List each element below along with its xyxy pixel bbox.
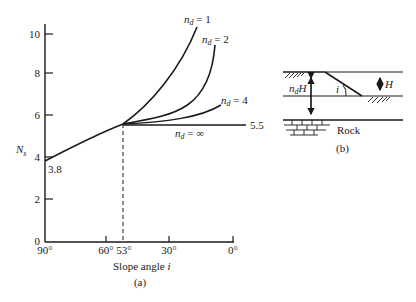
x-axis-title: Slope angle i [113,260,170,272]
ytick-label-8: 8 [35,67,41,79]
ytick-label-10: 10 [29,28,41,40]
label-nd-inf: nd = ∞ [175,127,204,141]
chart-a-labels: 10 8 6 4 2 0 90° 60° 53° 30° 0° Slope an… [15,13,264,289]
ytick-label-2: 2 [35,193,41,205]
slope-angle-arc [343,85,346,96]
ytick-label-6: 6 [35,109,41,121]
rock-label: Rock [337,124,361,136]
curve-nd-1 [123,27,197,124]
curve-common [45,124,123,161]
xtick-label-53: 53° [116,244,131,256]
ytick-label-4: 4 [35,151,41,163]
rock-brick-icon [284,120,330,135]
label-nd-1: nd = 1 [184,13,211,27]
xtick-label-30: 30° [161,244,176,256]
xtick-label-60: 60° [98,244,113,256]
slope-stability-figure: 10 8 6 4 2 0 90° 60° 53° 30° 0° Slope an… [0,0,416,302]
label-nd-2: nd = 2 [202,33,229,47]
angle-label: i [336,83,339,95]
caption-a: (a) [134,276,147,289]
height-label: H [384,78,394,90]
toe-hatch-icon [368,97,390,103]
chart-a [45,24,246,242]
xtick-label-90: 90° [37,244,52,256]
y-axis-title: Ns [15,143,26,158]
label-nd-4: nd = 4 [221,94,248,108]
xtick-label-0: 0° [228,244,238,256]
slope-face [325,72,362,96]
depth-label: ndH [289,82,308,96]
ground-hatch-icon [285,73,304,78]
caption-b: (b) [336,142,349,155]
asymptote-label: 5.5 [250,119,264,131]
slope-diagram-b-labels: ndH H i Rock (b) [289,78,394,155]
start-value-label: 3.8 [48,163,62,175]
